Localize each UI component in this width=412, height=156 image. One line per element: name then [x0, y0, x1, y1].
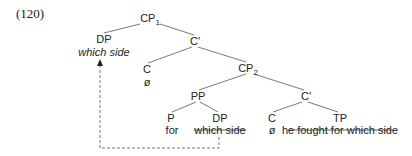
node-pp: PP	[191, 90, 206, 102]
node-spec-dp: DP	[96, 33, 111, 45]
edge-cbar1-cp2	[198, 47, 246, 62]
node-dp-trace: DP	[212, 112, 227, 124]
edge-cbar2-tp	[308, 102, 338, 112]
arrowhead-icon	[97, 59, 103, 66]
edge-cp1-dp	[104, 24, 140, 33]
edge-pp-p	[172, 102, 196, 112]
edge-cp1-cbar1	[160, 24, 194, 35]
node-tp: TP	[333, 112, 347, 124]
node-c-head-2: C	[268, 112, 276, 124]
node-cbar-1: C'	[190, 35, 200, 47]
node-c-head-1: C	[143, 63, 151, 75]
edge-cbar2-c	[273, 102, 302, 112]
node-p: P	[167, 112, 174, 124]
edge-cp2-cbar2	[254, 74, 304, 90]
syntax-tree: CP1 DP which side C' C ø CP2 PP C' P for…	[0, 0, 412, 156]
p-text: for	[166, 124, 179, 136]
edge-cbar1-c	[148, 47, 192, 63]
c-head-2-null: ø	[269, 124, 276, 136]
node-cbar-2: C'	[301, 90, 311, 102]
node-cp1: CP1	[140, 12, 160, 27]
c-head-1-null: ø	[144, 76, 151, 88]
spec-dp-text: which side	[78, 46, 129, 58]
edge-pp-dp	[200, 102, 218, 112]
node-cp2: CP2	[238, 62, 258, 77]
edge-cp2-pp	[199, 74, 246, 90]
